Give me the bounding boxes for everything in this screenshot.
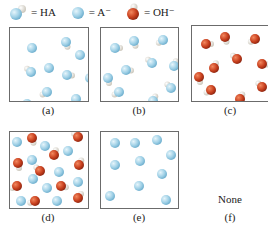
legend-label-a-minus: = A⁻ xyxy=(89,6,111,19)
a-minus-ion xyxy=(63,146,73,156)
ha-molecule xyxy=(156,35,168,46)
ha-molecule xyxy=(148,94,158,101)
hydroxide-ion xyxy=(204,85,216,95)
hydroxide-ion xyxy=(71,132,83,142)
a-minus-ion xyxy=(161,195,171,205)
a-minus-ion xyxy=(130,138,140,148)
panel-f-none-label: None xyxy=(191,193,268,205)
ha-molecule-icon xyxy=(8,4,28,20)
panel-c-particles xyxy=(192,26,268,101)
hydroxide-ion xyxy=(10,181,22,191)
hydroxide-ion xyxy=(248,34,260,45)
panel-a-box xyxy=(9,27,89,102)
ha-molecule xyxy=(24,66,36,77)
ha-molecule xyxy=(62,70,75,80)
a-minus-ion xyxy=(157,169,167,179)
panel-b-box xyxy=(100,27,179,102)
a-minus-ion xyxy=(40,141,50,151)
a-minus-ion xyxy=(110,138,120,148)
legend-label-ha: = HA xyxy=(31,6,56,18)
ha-molecule xyxy=(121,65,134,75)
hydroxide-ion xyxy=(194,72,204,85)
panel-f-caption: (f) xyxy=(191,211,268,223)
a-minus-ion xyxy=(73,177,83,187)
panel-c-box xyxy=(191,25,268,102)
ha-molecule xyxy=(61,37,71,50)
legend-item-oh-minus: = OH⁻ xyxy=(125,3,175,21)
hydroxide-ion xyxy=(220,32,230,45)
hydroxide-ion xyxy=(27,196,40,206)
a-minus-ion-icon xyxy=(70,4,86,20)
a-minus-ion xyxy=(27,43,37,53)
hydroxide-ion xyxy=(74,158,84,170)
ha-molecule xyxy=(164,82,176,93)
ha-molecule xyxy=(85,73,88,86)
panel-b-caption: (b) xyxy=(100,104,178,116)
panel-c-caption: (c) xyxy=(191,104,268,116)
panel-e-particles xyxy=(101,132,178,208)
panel-a-caption: (a) xyxy=(9,104,87,116)
a-minus-ion xyxy=(166,150,176,160)
a-minus-ion xyxy=(12,137,22,147)
a-minus-ion xyxy=(27,155,37,165)
a-minus-ion xyxy=(134,181,144,191)
a-minus-ion xyxy=(71,94,81,101)
a-minus-ion xyxy=(52,196,62,206)
panel-d-caption: (d) xyxy=(9,211,87,223)
a-minus-ion xyxy=(54,167,64,177)
hydroxide-ion xyxy=(235,92,245,101)
panel-a-particles xyxy=(10,28,88,101)
panel-b-particles xyxy=(101,28,178,101)
panel-d-box xyxy=(9,131,89,209)
a-minus-ion xyxy=(105,191,115,201)
legend-item-ha: = HA xyxy=(8,4,56,20)
legend: = HA = A⁻ = OH⁻ xyxy=(8,4,189,20)
hydroxide-ion xyxy=(13,158,23,171)
a-minus-ion xyxy=(75,50,85,60)
ha-molecule xyxy=(129,36,139,49)
hydroxide-ion xyxy=(230,53,242,64)
hydroxide-ion xyxy=(33,165,45,176)
hydroxide-ion xyxy=(27,133,37,146)
ha-molecule xyxy=(103,73,113,86)
hydroxide-ion xyxy=(255,81,267,92)
a-minus-ion xyxy=(22,99,32,101)
ha-molecule xyxy=(40,87,52,97)
a-minus-ion xyxy=(110,160,120,170)
ha-molecule xyxy=(145,57,157,68)
ha-molecule xyxy=(112,87,124,97)
hydroxide-ion xyxy=(209,60,219,73)
panel-e-caption: (e) xyxy=(100,211,178,223)
hydroxide-ion xyxy=(49,147,59,160)
a-minus-ion xyxy=(152,135,162,145)
a-minus-ion xyxy=(42,183,52,193)
hydroxide-ion xyxy=(201,39,214,49)
hydroxide-ion xyxy=(73,191,84,203)
hydroxide-ion xyxy=(56,181,69,191)
panel-e-box xyxy=(100,131,179,209)
legend-item-a-minus: = A⁻ xyxy=(70,4,111,20)
a-minus-ion xyxy=(44,63,54,73)
ha-molecule xyxy=(110,43,123,53)
ha-molecule xyxy=(169,58,178,71)
legend-label-oh-minus: = OH⁻ xyxy=(144,6,175,19)
a-minus-ion xyxy=(135,156,145,166)
hydroxide-ion xyxy=(257,59,268,69)
panel-d-particles xyxy=(10,132,88,208)
hydroxide-ion-icon xyxy=(125,3,141,21)
a-minus-ion xyxy=(28,174,38,184)
a-minus-ion xyxy=(16,196,26,206)
